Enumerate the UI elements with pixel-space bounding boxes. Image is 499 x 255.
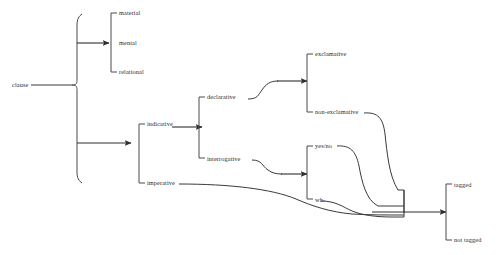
label-mental: mental	[119, 39, 137, 46]
label-material: material	[119, 9, 140, 16]
bracket-process-type	[111, 13, 117, 72]
curve-interrogative-to-interrogative-system	[252, 160, 282, 174]
curve-non-exclamative-to-tagging	[364, 113, 404, 213]
label-imperative: imperative	[147, 179, 175, 186]
label-declarative: declarative	[207, 93, 236, 100]
system-network-diagram: clause material mental relational indica…	[0, 0, 499, 255]
label-indicative: indicative	[147, 120, 173, 127]
bracket-declarative-type	[307, 54, 313, 112]
label-tagged: tagged	[454, 181, 471, 188]
bracket-mood-type	[139, 124, 145, 183]
bracket-interrogative-type	[307, 146, 313, 199]
network-graphics	[0, 0, 499, 255]
bracket-tagging	[446, 184, 452, 240]
label-interrogative: interrogative	[207, 155, 240, 162]
label-not-tagged: not tagged	[454, 236, 481, 243]
label-relational: relational	[119, 68, 144, 75]
root-brace	[72, 14, 82, 85]
root-brace-lower	[72, 85, 82, 183]
curve-yesno-to-tagging	[337, 146, 404, 206]
label-clause: clause	[12, 81, 28, 88]
label-exclamative: exclamative	[315, 50, 347, 57]
label-wh: wh-	[315, 196, 325, 203]
curve-declarative-to-exclamative-system	[248, 81, 278, 99]
label-non-exclamative: non-exclamative	[315, 108, 358, 115]
label-yes-no: yes/no	[315, 142, 332, 149]
